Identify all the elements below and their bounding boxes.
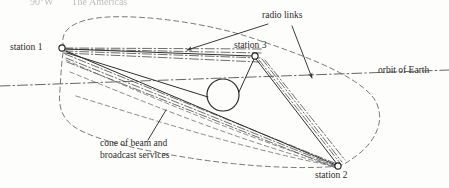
earth-circle [207,79,239,111]
station2-label: station 2 [315,170,347,181]
station2-node[interactable] [335,163,341,169]
station1-label: station 1 [10,42,42,53]
orbit-of-earth-label: orbit of Earth [378,65,429,76]
station1-node[interactable] [59,45,65,51]
figure-canvas: 90°WThe Americas [0,0,449,188]
cone-label-line2: broadcast services [100,150,169,162]
cone-label-line1: cone of beam and [100,138,169,150]
radio-links-leader-right [292,26,312,78]
radio-link-station1-earth [67,53,208,97]
cone-station3-to-station2 [259,59,345,163]
station3-node[interactable] [252,53,258,59]
radio-link-station3-earth [239,59,254,92]
diagram-svg [0,0,449,188]
radio-links-label: radio links [262,10,302,21]
station3-label: station 3 [234,40,266,51]
cone-label-leader [148,110,166,140]
cone-label: cone of beam and broadcast services [100,138,169,161]
